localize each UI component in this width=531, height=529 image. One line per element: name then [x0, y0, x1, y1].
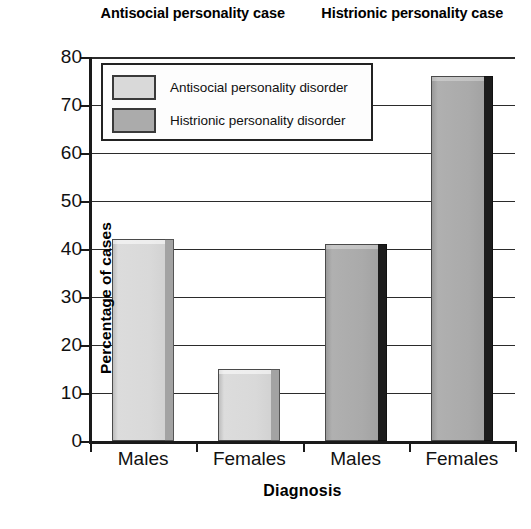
- bar-antisocial-females: [218, 369, 280, 441]
- y-tick-label-50: 50: [61, 190, 82, 212]
- y-tick-label-60: 60: [61, 142, 82, 164]
- bar-side-face: [378, 244, 387, 441]
- x-tick-label-3-females: Females: [409, 448, 515, 474]
- y-tick-label-20: 20: [61, 334, 82, 356]
- bar-side-face: [165, 239, 174, 441]
- bar-chart: Antisocial personality case Histrionic p…: [0, 0, 531, 529]
- legend: Antisocial personality disorder Histrion…: [101, 63, 373, 141]
- legend-swatch-icon-histrionic: [112, 108, 156, 133]
- y-tick-label-40: 40: [61, 238, 82, 260]
- gridline-80: [90, 57, 515, 59]
- x-axis-tick-labels: MalesFemalesMalesFemales: [90, 448, 515, 474]
- y-axis-line: [89, 57, 92, 441]
- bar-antisocial-males: [112, 239, 174, 441]
- x-axis-line: [89, 441, 515, 444]
- y-tick-label-10: 10: [61, 382, 82, 404]
- group-headers: Antisocial personality case Histrionic p…: [90, 4, 515, 50]
- x-tick-label-2-males: Males: [303, 448, 409, 474]
- legend-item-antisocial: Antisocial personality disorder: [103, 71, 371, 104]
- y-tick-label-0: 0: [71, 430, 82, 452]
- bar-histrionic-females: [431, 76, 493, 441]
- x-tick-end: [515, 441, 517, 452]
- bar-side-face: [484, 76, 493, 441]
- y-tick-label-70: 70: [61, 94, 82, 116]
- group-header-antisocial: Antisocial personality case: [90, 4, 304, 50]
- legend-item-histrionic: Histrionic personality disorder: [103, 104, 371, 137]
- legend-label-histrionic: Histrionic personality disorder: [170, 113, 346, 128]
- legend-swatch-icon-antisocial: [112, 75, 156, 100]
- y-tick-label-30: 30: [61, 286, 82, 308]
- legend-label-antisocial: Antisocial personality disorder: [170, 80, 348, 95]
- x-tick-label-0-males: Males: [90, 448, 196, 474]
- y-tick-label-80: 80: [61, 46, 82, 68]
- bar-histrionic-males: [325, 244, 387, 441]
- y-axis-title: Percentage of cases: [97, 198, 115, 398]
- group-header-histrionic: Histrionic personality case: [304, 4, 516, 50]
- x-axis-title: Diagnosis: [90, 482, 515, 500]
- bar-side-face: [271, 369, 280, 441]
- x-tick-label-1-females: Females: [196, 448, 302, 474]
